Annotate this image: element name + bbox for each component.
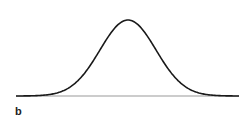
normal-distribution-curve (16, 20, 239, 96)
panel-label: b (15, 105, 22, 117)
bell-curve-figure (0, 0, 252, 125)
